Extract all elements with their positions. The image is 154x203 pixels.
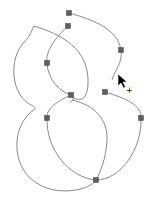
anchor-point-1[interactable] bbox=[67, 11, 72, 16]
anchor-point-5[interactable] bbox=[119, 48, 124, 53]
top-segment[interactable] bbox=[69, 13, 121, 80]
lower-inner-loop[interactable] bbox=[47, 95, 96, 180]
cursor-modifier: + bbox=[126, 86, 133, 95]
pen-add-anchor-cursor-icon: + bbox=[118, 74, 133, 95]
anchor-point-6[interactable] bbox=[103, 90, 108, 95]
outer-path-top[interactable] bbox=[34, 26, 88, 99]
anchor-point-3[interactable] bbox=[45, 61, 50, 66]
anchor-point-7[interactable] bbox=[45, 116, 50, 121]
outer-path-left[interactable] bbox=[14, 26, 96, 191]
drawing-canvas[interactable]: + bbox=[0, 0, 154, 203]
anchor-point-9[interactable] bbox=[94, 178, 99, 183]
inner-notch[interactable] bbox=[70, 97, 107, 180]
anchor-point-8[interactable] bbox=[139, 116, 144, 121]
anchor-point-2[interactable] bbox=[66, 24, 71, 29]
anchor-point-4[interactable] bbox=[69, 93, 74, 98]
lower-right-lobe[interactable] bbox=[96, 92, 141, 180]
